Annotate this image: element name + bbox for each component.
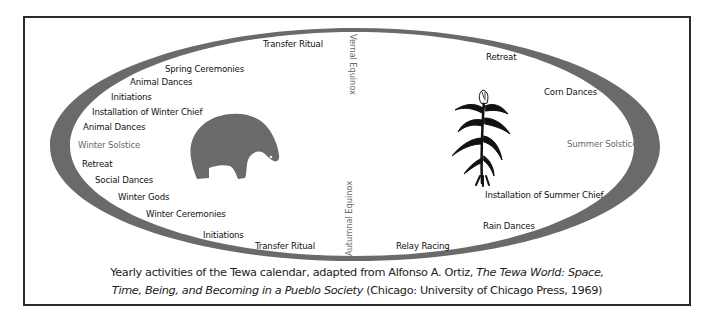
activity-label: Retreat xyxy=(486,52,516,62)
caption-book-title: Time, Being, and Becoming in a Pueblo So… xyxy=(112,284,363,297)
figure-caption-line-2: Time, Being, and Becoming in a Pueblo So… xyxy=(0,284,714,297)
activity-label: Animal Dances xyxy=(130,77,192,87)
corn-plant-icon xyxy=(452,90,510,186)
activity-label: Corn Dances xyxy=(544,87,597,97)
caption-text: Yearly activities of the Tewa calendar, … xyxy=(110,266,476,279)
activity-label: Social Dances xyxy=(95,175,153,185)
caption-book-title: The Tewa World: Space, xyxy=(476,266,604,279)
activity-label: Initiations xyxy=(111,92,152,102)
activity-label: Relay Racing xyxy=(396,241,450,251)
activity-label: Spring Ceremonies xyxy=(165,64,244,74)
figure-caption-line-1: Yearly activities of the Tewa calendar, … xyxy=(0,266,714,279)
vernal-equinox-label: Vernal Equinox xyxy=(348,34,358,95)
activity-label: Initiations xyxy=(203,230,244,240)
activity-label: Winter Ceremonies xyxy=(146,209,226,219)
activity-label: Installation of Winter Chief xyxy=(92,107,202,117)
caption-text: (Chicago: University of Chicago Press, 1… xyxy=(363,284,602,297)
activity-label: Installation of Summer Chief xyxy=(485,190,604,200)
autumnal-equinox-label: Autumnal Equinox xyxy=(344,181,354,256)
activity-label: Rain Dances xyxy=(483,221,535,231)
activity-label: Transfer Ritual xyxy=(263,39,323,49)
bear-icon xyxy=(190,114,279,179)
activity-label: Transfer Ritual xyxy=(255,241,315,251)
activity-label: Retreat xyxy=(82,159,112,169)
activity-label: Animal Dances xyxy=(83,122,145,132)
summer-solstice-label: Summer Solstice xyxy=(567,139,637,149)
winter-solstice-label: Winter Solstice xyxy=(78,140,140,150)
activity-label: Winter Gods xyxy=(118,192,169,202)
